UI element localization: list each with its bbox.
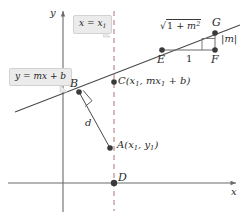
point-e-label: E bbox=[157, 54, 165, 65]
point-markers bbox=[76, 30, 218, 186]
point-d-label: D bbox=[118, 172, 127, 183]
callout-vertical-line-equation: x = x1 bbox=[73, 15, 112, 34]
point-f-label: F bbox=[211, 54, 219, 65]
diagram-canvas bbox=[0, 0, 247, 219]
point-c-marker bbox=[111, 79, 117, 85]
geometry-figure: y x x = x1 y = mx + b A(x1, y1) B C(x1, … bbox=[0, 0, 247, 219]
y-axis-label: y bbox=[50, 8, 56, 18]
point-b-label: B bbox=[70, 78, 78, 89]
point-c-label: C(x1, mx1 + b) bbox=[118, 76, 190, 88]
point-b-marker bbox=[76, 89, 82, 95]
point-g-marker bbox=[212, 30, 218, 36]
point-g-label: G bbox=[212, 17, 221, 28]
point-a-marker bbox=[107, 145, 113, 151]
run-label-one: 1 bbox=[186, 54, 192, 64]
point-f-marker bbox=[212, 47, 218, 53]
distance-label-d: d bbox=[85, 118, 91, 128]
point-a-label: A(x1, y1) bbox=[117, 140, 158, 152]
right-angle-marker-b bbox=[83, 90, 92, 106]
callout-line-equation: y = mx + b bbox=[9, 68, 72, 86]
point-d-marker bbox=[111, 180, 117, 186]
rise-label-abs-m: |m| bbox=[221, 34, 237, 44]
hypotenuse-label-sqrt: √1 + m2 bbox=[160, 19, 201, 31]
point-e-marker bbox=[159, 47, 165, 53]
x-axis-label: x bbox=[231, 187, 237, 197]
distance-segment-d bbox=[79, 92, 110, 148]
y-axis bbox=[61, 11, 65, 212]
